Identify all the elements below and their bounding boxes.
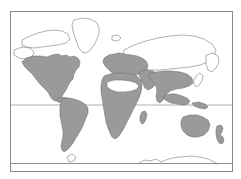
shaded-region-australia: [181, 115, 210, 137]
map-canvas: [0, 0, 241, 179]
world-distribution-map-figure: [0, 0, 241, 179]
